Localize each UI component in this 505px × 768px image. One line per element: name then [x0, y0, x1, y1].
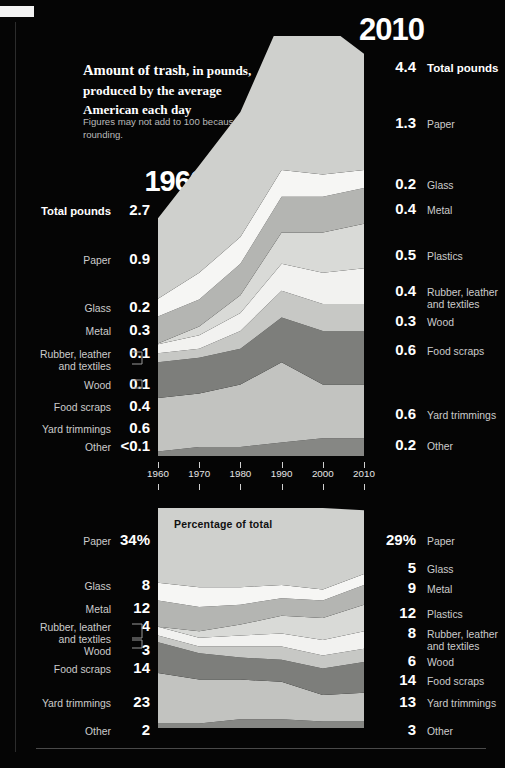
legend-label: Wood	[427, 317, 454, 329]
legend-row: Paper34%	[0, 531, 150, 548]
legend-value: 0.3	[386, 312, 416, 329]
axis-tick-lower	[240, 484, 241, 490]
legend-label: Glass	[84, 581, 111, 593]
year-heading-2010: 2010	[359, 12, 424, 48]
legend-row: 14Food scraps	[386, 671, 484, 688]
legend-label: Other	[85, 442, 111, 454]
legend-row: Rubber, leatherand textiles0.1	[0, 344, 150, 372]
legend-value: 0.2	[386, 436, 416, 453]
legend-label: Plastics	[427, 251, 463, 263]
legend-label: Paper	[427, 119, 455, 131]
axis-tick-lower	[364, 484, 365, 490]
legend-row: 13Yard trimmings	[386, 693, 496, 710]
leader-lines-top	[130, 330, 170, 410]
legend-row: Yard trimmings0.6	[0, 419, 150, 436]
legend-label: Other	[85, 726, 111, 738]
legend-label: Food scraps	[54, 664, 111, 676]
legend-label: Rubber, leatherand textiles	[427, 629, 498, 652]
legend-row: 3Other	[386, 721, 453, 738]
legend-label: Other	[427, 726, 453, 738]
legend-label: Paper	[83, 255, 111, 267]
legend-label: Wood	[427, 657, 454, 669]
chart-x-axis: 196019701980199020002010	[136, 462, 386, 496]
pounds-stacked-area-chart	[158, 36, 364, 456]
legend-row: 4.4Total pounds	[386, 58, 498, 75]
legend-row: Food scraps14	[0, 659, 150, 676]
legend-row: 9Metal	[386, 579, 452, 596]
legend-label: Glass	[427, 180, 454, 192]
legend-row: 6Wood	[386, 652, 454, 669]
legend-row: 0.6Food scraps	[386, 341, 484, 358]
legend-value: 34%	[120, 531, 150, 548]
legend-value: 0.2	[386, 175, 416, 192]
pounds-area-svg	[158, 36, 364, 456]
legend-row: 0.2Other	[386, 436, 453, 453]
axis-tick-label: 1970	[188, 468, 210, 479]
legend-value: 3	[386, 721, 416, 738]
legend-value: 9	[386, 579, 416, 596]
legend-value: 13	[386, 693, 416, 710]
legend-label: Glass	[84, 303, 111, 315]
legend-row: Paper0.9	[0, 250, 150, 267]
legend-label: Total pounds	[427, 62, 498, 75]
legend-label: Glass	[427, 564, 454, 576]
axis-tick-lower	[199, 484, 200, 490]
legend-row: Metal0.3	[0, 321, 150, 338]
legend-row: Wood3	[0, 641, 150, 658]
axis-tick-label: 2000	[312, 468, 334, 479]
legend-value: <0.1	[120, 437, 150, 454]
leader-lines-bottom	[130, 612, 170, 672]
percentage-stacked-area-chart: Percentage of total	[158, 508, 364, 728]
axis-tick-label: 2010	[353, 468, 375, 479]
legend-value: 0.6	[386, 341, 416, 358]
legend-row: Wood0.1	[0, 375, 150, 392]
legend-value: 12	[386, 604, 416, 621]
legend-row: Glass0.2	[0, 298, 150, 315]
legend-value: 2	[120, 721, 150, 738]
legend-value: 23	[120, 693, 150, 710]
legend-row: 0.5Plastics	[386, 246, 463, 263]
legend-label: Rubber, leatherand textiles	[427, 287, 498, 310]
legend-value: 5	[386, 559, 416, 576]
legend-label: Food scraps	[54, 402, 111, 414]
legend-row: 0.3Wood	[386, 312, 454, 329]
legend-value: 0.2	[120, 298, 150, 315]
legend-value: 8	[386, 624, 416, 641]
legend-row: Yard trimmings23	[0, 693, 150, 710]
legend-row: 8Rubber, leatherand textiles	[386, 624, 498, 652]
legend-row: 0.6Yard trimmings	[386, 405, 496, 422]
page-corner-mark	[0, 6, 34, 17]
legend-label: Wood	[84, 646, 111, 658]
legend-row: 5Glass	[386, 559, 454, 576]
axis-tick-label: 1960	[147, 468, 169, 479]
legend-row: 0.4Rubber, leatherand textiles	[386, 282, 498, 310]
legend-value: 1.3	[386, 114, 416, 131]
legend-label: Plastics	[427, 609, 463, 621]
legend-value: 4.4	[386, 58, 416, 75]
legend-label: Yard trimmings	[427, 410, 496, 422]
infographic-page: { "headline": { "lead": "Amount of trash…	[0, 0, 505, 768]
legend-row: Other<0.1	[0, 437, 150, 454]
legend-row: Total pounds2.7	[0, 201, 150, 218]
legend-value: 6	[386, 652, 416, 669]
legend-label: Metal	[86, 604, 111, 616]
legend-row: Metal12	[0, 599, 150, 616]
percentage-area-svg	[158, 508, 364, 728]
legend-row: 1.3Paper	[386, 114, 455, 131]
legend-label: Other	[427, 441, 453, 453]
legend-value: 8	[120, 576, 150, 593]
legend-label: Total pounds	[41, 205, 111, 218]
legend-label: Yard trimmings	[42, 698, 111, 710]
legend-row: Glass8	[0, 576, 150, 593]
legend-label: Metal	[86, 326, 111, 338]
legend-row: 0.2Glass	[386, 175, 454, 192]
axis-tick-lower	[323, 484, 324, 490]
legend-label: Wood	[84, 380, 111, 392]
legend-value: 0.4	[386, 200, 416, 217]
legend-label: Food scraps	[427, 346, 484, 358]
axis-tick-label: 1980	[229, 468, 251, 479]
legend-row: Food scraps0.4	[0, 397, 150, 414]
legend-row: 29%Paper	[386, 531, 455, 548]
legend-value: 0.5	[386, 246, 416, 263]
legend-value: 0.6	[120, 419, 150, 436]
